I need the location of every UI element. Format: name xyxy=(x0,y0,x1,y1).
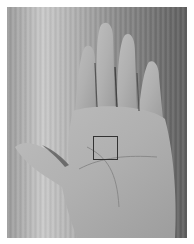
hand-photo xyxy=(7,7,187,238)
roi-box xyxy=(93,136,118,160)
hand-shape xyxy=(7,7,187,238)
